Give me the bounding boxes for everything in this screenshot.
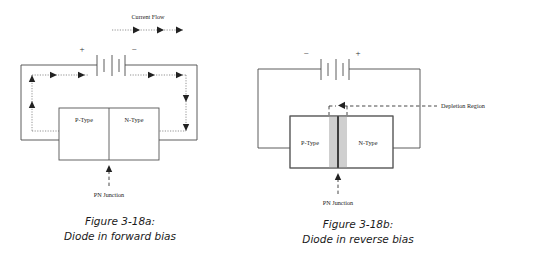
caption-b-line1: Figure 3-18b: xyxy=(323,218,393,230)
diode-body-a xyxy=(59,108,159,160)
battery-symbol-b xyxy=(321,59,349,80)
battery-symbol-a xyxy=(97,55,125,76)
depletion-region-label: Depletion Region xyxy=(441,102,485,109)
pn-junction-label-a: PN Junction xyxy=(94,191,124,198)
caption-b-line2: Diode in reverse bias xyxy=(302,233,414,245)
panel-a-forward-bias: + − xyxy=(21,13,197,242)
p-type-label-b: P-Type xyxy=(301,139,319,146)
n-type-label-a: N-Type xyxy=(125,116,144,123)
current-flow-arrow-group xyxy=(112,27,183,34)
panel-b-reverse-bias: − + P-Type N-Type Depletion Region xyxy=(258,48,485,245)
battery-plus-label-a: + xyxy=(79,44,84,54)
battery-plus-label-b: + xyxy=(355,48,360,58)
pn-junction-pointer-b xyxy=(335,173,341,194)
depletion-region-callout xyxy=(329,102,437,115)
caption-a-line1: Figure 3-18a: xyxy=(85,215,155,227)
caption-a-line2: Diode in forward bias xyxy=(64,230,177,242)
diode-bias-diagram: + − xyxy=(0,0,539,263)
n-type-label-b: N-Type xyxy=(359,139,378,146)
figure-container: + − xyxy=(0,0,539,263)
pn-junction-pointer-a xyxy=(106,165,112,186)
battery-minus-label-b: − xyxy=(303,48,308,58)
pn-junction-label-b: PN Junction xyxy=(323,199,353,206)
current-flow-label: Current Flow xyxy=(131,13,165,20)
battery-minus-label-a: − xyxy=(131,44,136,54)
p-type-label-a: P-Type xyxy=(75,116,93,123)
